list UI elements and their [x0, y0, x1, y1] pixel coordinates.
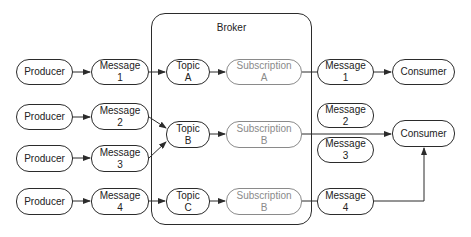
- producer-2: Producer: [16, 104, 73, 130]
- topic-id: A: [185, 72, 192, 84]
- message-out-1: Message 1: [317, 59, 374, 85]
- topic-a: Topic A: [166, 59, 210, 85]
- producer-label: Producer: [24, 153, 65, 165]
- message-number: 1: [343, 72, 349, 84]
- message-number: 4: [117, 202, 123, 214]
- message-label: Message: [100, 105, 141, 117]
- message-out-3: Message 3: [317, 137, 374, 163]
- producer-3: Producer: [16, 145, 73, 172]
- topic-label: Topic: [176, 123, 199, 135]
- message-label: Message: [325, 104, 366, 116]
- message-label: Message: [325, 190, 366, 202]
- arrow-message2-topicB: [149, 117, 166, 128]
- subscription-label: Subscription: [236, 60, 291, 72]
- arrow-message3-topicB: [149, 142, 166, 158]
- consumer-label: Consumer: [400, 66, 446, 78]
- message-label: Message: [100, 147, 141, 159]
- producer-1: Producer: [16, 59, 73, 85]
- subscription-b-2: Subscription B: [226, 188, 302, 215]
- message-number: 3: [117, 159, 123, 171]
- consumer-1: Consumer: [392, 59, 455, 85]
- topic-id: C: [184, 202, 191, 214]
- message-number: 2: [117, 117, 123, 129]
- message-in-2: Message 2: [91, 103, 149, 130]
- arrow-message4-consumer2: [374, 148, 424, 201]
- subscription-id: B: [261, 135, 268, 147]
- producer-label: Producer: [24, 66, 65, 78]
- message-number: 4: [343, 202, 349, 214]
- message-out-4: Message 4: [317, 188, 374, 215]
- message-in-4: Message 4: [91, 188, 149, 215]
- subscription-label: Subscription: [236, 190, 291, 202]
- topic-label: Topic: [176, 60, 199, 72]
- topic-c: Topic C: [166, 188, 210, 215]
- consumer-2: Consumer: [392, 120, 455, 147]
- message-in-1: Message 1: [91, 59, 149, 85]
- producer-label: Producer: [24, 196, 65, 208]
- consumer-label: Consumer: [400, 128, 446, 140]
- subscription-a: Subscription A: [226, 59, 302, 85]
- message-number: 1: [117, 72, 123, 84]
- subscription-label: Subscription: [236, 123, 291, 135]
- subscription-id: B: [261, 202, 268, 214]
- topic-b: Topic B: [166, 121, 210, 148]
- message-label: Message: [100, 60, 141, 72]
- message-label: Message: [100, 190, 141, 202]
- producer-4: Producer: [16, 188, 73, 215]
- producer-label: Producer: [24, 111, 65, 123]
- message-label: Message: [325, 60, 366, 72]
- topic-id: B: [185, 135, 192, 147]
- message-in-3: Message 3: [91, 145, 149, 172]
- subscription-b-1: Subscription B: [226, 121, 302, 148]
- message-number: 3: [343, 150, 349, 162]
- message-out-2: Message 2: [317, 103, 374, 128]
- message-label: Message: [325, 138, 366, 150]
- message-number: 2: [343, 116, 349, 128]
- topic-label: Topic: [176, 190, 199, 202]
- subscription-id: A: [261, 72, 268, 84]
